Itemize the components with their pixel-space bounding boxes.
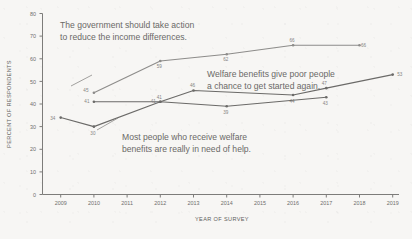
data-point-label: 66 <box>290 38 296 43</box>
x-tick-label-2013: 2013 <box>188 200 200 206</box>
annotation-need-of-help: Most people who receive welfare benefits… <box>122 132 251 154</box>
annotation-need-of-help-line-1: Most people who receive welfare <box>122 132 247 142</box>
data-point-label: 41 <box>157 95 163 100</box>
x-axis-ticks: 2009 2010 2011 2012 2013 2014 2015 2016 … <box>55 195 399 207</box>
x-tick-label-2010: 2010 <box>88 200 100 206</box>
y-tick-label-20: 20 <box>30 146 36 152</box>
data-point-marker <box>292 44 295 47</box>
data-point-label: 30 <box>90 131 96 136</box>
data-point-marker <box>325 87 328 90</box>
x-tick-label-2011: 2011 <box>121 200 133 206</box>
data-point-label: 43 <box>323 101 329 106</box>
data-point-marker <box>391 73 394 76</box>
y-axis-ticks: 0 10 20 30 40 50 60 70 80 <box>30 11 43 198</box>
data-point-marker <box>292 94 295 97</box>
data-point-marker <box>93 125 96 128</box>
annotation-need-of-help-line-2: benefits are really in need of help. <box>122 144 251 154</box>
data-point-marker <box>159 60 162 63</box>
data-point-label: 34 <box>50 116 56 121</box>
data-point-label: 46 <box>190 83 196 88</box>
data-point-label: 41 <box>84 99 90 104</box>
x-tick-label-2019: 2019 <box>387 200 399 206</box>
data-point-marker <box>93 91 96 94</box>
annotation-welfare-chance-line-2: a chance to get started again. <box>207 81 320 91</box>
x-tick-label-2016: 2016 <box>287 200 299 206</box>
y-axis-title: PERCENT OF RESPONDENTS <box>6 60 12 148</box>
data-point-label: 66 <box>361 43 367 48</box>
leader-line-government-action <box>71 75 92 86</box>
data-point-marker <box>59 116 62 119</box>
chart-figure: 0 10 20 30 40 50 60 70 80 2009 2010 2011 <box>0 0 412 239</box>
data-point-marker <box>225 105 228 108</box>
data-point-label: 53 <box>397 72 403 77</box>
y-tick-label-0: 0 <box>33 192 36 198</box>
y-tick-label-50: 50 <box>30 79 36 85</box>
data-point-label: 47 <box>322 81 328 86</box>
x-tick-label-2012: 2012 <box>154 200 166 206</box>
y-tick-label-70: 70 <box>30 33 36 39</box>
data-point-marker <box>192 89 195 92</box>
x-axis-title: YEAR OF SURVEY <box>195 216 249 222</box>
annotation-welfare-chance-line-1: Welfare benefits give poor people <box>207 69 335 79</box>
data-point-label: 62 <box>223 57 229 62</box>
annotation-government-action-line-1: The government should take action <box>60 20 194 30</box>
line-chart-plot: 0 10 20 30 40 50 60 70 80 2009 2010 2011 <box>0 0 412 239</box>
annotation-government-action-line-2: to reduce the income differences. <box>60 32 187 42</box>
y-tick-label-80: 80 <box>30 11 36 17</box>
y-tick-label-30: 30 <box>30 124 36 130</box>
x-tick-label-2018: 2018 <box>354 200 366 206</box>
x-tick-label-2014: 2014 <box>221 200 233 206</box>
data-point-marker <box>159 100 162 103</box>
data-point-marker <box>325 96 328 99</box>
x-tick-label-2015: 2015 <box>254 200 266 206</box>
data-point-marker <box>225 53 228 56</box>
x-tick-label-2009: 2009 <box>55 200 67 206</box>
data-point-label: 39 <box>223 110 229 115</box>
annotation-welfare-chance: Welfare benefits give poor people a chan… <box>207 69 335 91</box>
x-tick-label-2017: 2017 <box>320 200 332 206</box>
data-point-marker <box>93 100 96 103</box>
data-point-label: 59 <box>157 64 163 69</box>
y-tick-label-60: 60 <box>30 56 36 62</box>
series-need-of-help: 3430413943 <box>50 95 328 136</box>
y-tick-label-40: 40 <box>30 101 36 107</box>
y-tick-label-10: 10 <box>30 169 36 175</box>
annotation-government-action: The government should take action to red… <box>60 20 194 42</box>
data-point-label: 45 <box>83 88 89 93</box>
